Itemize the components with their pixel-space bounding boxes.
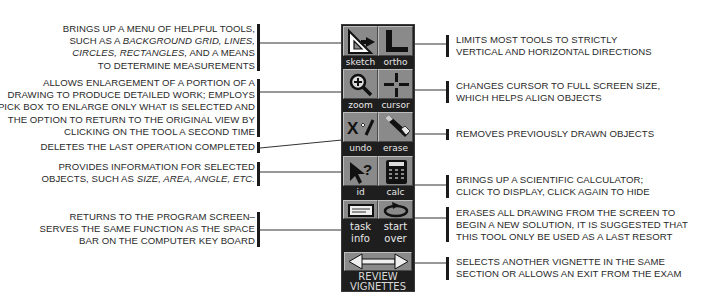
svg-text:X: X — [347, 119, 359, 138]
triangle-ruler-icon — [344, 27, 379, 57]
undo-button[interactable]: X — [343, 112, 378, 142]
start-over-button[interactable] — [378, 200, 413, 219]
card-icon — [344, 201, 379, 220]
circular-arrow-icon — [379, 201, 414, 220]
undo-label: undo — [343, 143, 378, 153]
task-info-button[interactable] — [343, 200, 378, 219]
calc-label: calc — [378, 187, 413, 197]
calculator-icon — [379, 157, 414, 187]
crosshair-icon — [379, 70, 414, 100]
zoom-button[interactable] — [343, 69, 378, 99]
svg-text:?: ? — [363, 161, 372, 178]
cursor-button[interactable] — [378, 69, 413, 99]
arrow-question-icon: ? — [344, 157, 379, 187]
review-vignettes-label: REVIEW VIGNETTES — [342, 272, 414, 292]
review-vignettes-button[interactable] — [344, 252, 412, 271]
x-check-icon: X — [344, 113, 379, 143]
cursor-label: cursor — [378, 100, 413, 110]
erase-button[interactable] — [378, 112, 413, 142]
sketch-button[interactable] — [343, 26, 378, 56]
magnifier-plus-icon — [344, 70, 379, 100]
ortho-button[interactable] — [378, 26, 413, 56]
zoom-label: zoom — [343, 100, 378, 110]
id-button[interactable]: ? — [343, 156, 378, 186]
erase-label: erase — [378, 143, 413, 153]
sketch-label: sketch — [343, 57, 378, 67]
ortho-label: ortho — [378, 57, 413, 67]
id-label: id — [343, 187, 378, 197]
double-arrow-icon — [345, 253, 413, 272]
start-over-label: start over — [378, 221, 413, 245]
task-info-label: task info — [343, 221, 378, 245]
eraser-icon — [379, 113, 414, 143]
l-square-icon — [379, 27, 414, 57]
calc-button[interactable] — [378, 156, 413, 186]
toolbar: sketch ortho zoom cursor X u — [341, 24, 415, 292]
